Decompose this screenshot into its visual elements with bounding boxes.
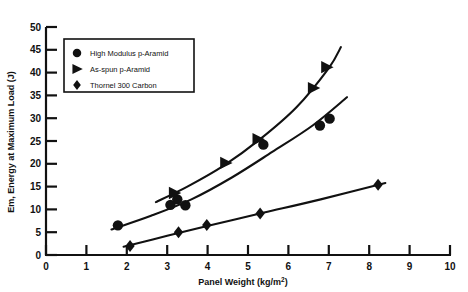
x-tick-label: 5: [245, 261, 251, 272]
x-tick-label: 6: [286, 261, 292, 272]
marker-circle: [180, 200, 190, 210]
x-tick-label: 8: [366, 261, 372, 272]
x-tick-label: 10: [444, 261, 456, 272]
x-tick-label: 0: [43, 261, 49, 272]
x-axis-title-tail: ): [285, 277, 288, 287]
legend-label: As-spun p-Aramid: [90, 65, 150, 74]
legend-label: High Modulus p-Aramid: [90, 49, 168, 58]
marker-circle: [315, 120, 325, 130]
y-tick-label: 5: [35, 227, 41, 238]
x-tick-label: 3: [164, 261, 170, 272]
legend-label: Thornel 300 Carbon: [90, 81, 157, 90]
marker-circle: [113, 220, 123, 230]
chart-legend: High Modulus p-AramidAs-spun p-AramidTho…: [64, 39, 194, 92]
x-tick-label: 7: [326, 261, 332, 272]
y-tick-label: 50: [30, 22, 42, 33]
x-axis-title: Panel Weight (kg/m2): [198, 276, 287, 288]
y-tick-label: 25: [30, 136, 42, 147]
x-axis-title-base: Panel Weight (kg/m: [198, 277, 281, 287]
marker-circle: [324, 113, 334, 123]
x-tick-label: 2: [124, 261, 130, 272]
y-axis-title: Em, Energy at Maximum Load (J): [6, 71, 16, 213]
y-tick-label: 20: [30, 158, 42, 169]
y-tick-label: 30: [30, 113, 42, 124]
x-tick-label: 4: [205, 261, 211, 272]
y-tick-label: 40: [30, 67, 42, 78]
x-tick-label: 1: [84, 261, 90, 272]
y-tick-label: 0: [35, 250, 41, 261]
chart-figure: 05101520253035404550 012345678910 Em, En…: [0, 0, 468, 292]
x-tick-label: 9: [407, 261, 413, 272]
y-tick-label: 10: [30, 204, 42, 215]
marker-circle: [73, 49, 82, 58]
y-tick-label: 15: [30, 181, 42, 192]
y-tick-label: 35: [30, 90, 42, 101]
y-tick-label: 45: [30, 44, 42, 55]
